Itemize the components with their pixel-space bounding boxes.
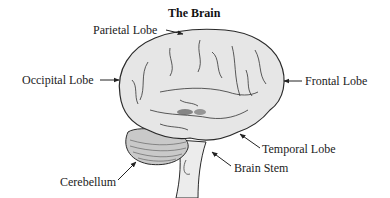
label-cerebellum: Cerebellum (60, 175, 116, 190)
label-parietal-lobe: Parietal Lobe (93, 23, 157, 38)
temporal-arrow (240, 134, 260, 148)
brain-stem-arrow (212, 152, 231, 166)
label-frontal-lobe: Frontal Lobe (305, 74, 367, 89)
diagram-title: The Brain (168, 6, 220, 21)
label-brain-stem: Brain Stem (234, 161, 288, 176)
label-temporal-lobe: Temporal Lobe (262, 142, 335, 157)
label-occipital-lobe: Occipital Lobe (22, 73, 94, 88)
cerebrum-shape (119, 29, 284, 140)
cerebellum-arrow (118, 162, 136, 180)
brain-illustration (0, 0, 390, 198)
